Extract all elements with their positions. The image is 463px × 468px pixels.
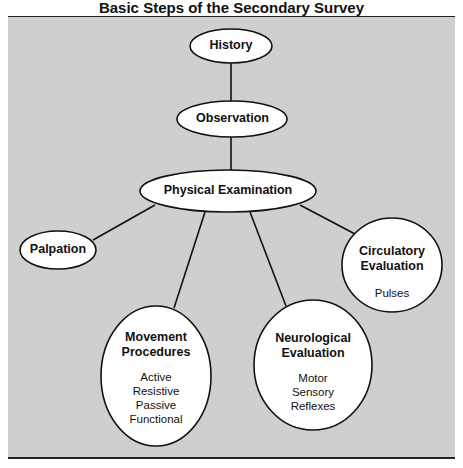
node-neurological-item: Sensory <box>254 385 372 399</box>
node-movement-item: Passive <box>101 398 211 412</box>
node-neurological-item: Reflexes <box>254 399 372 413</box>
node-neurological-evaluation: Neurological Evaluation Motor Sensory Re… <box>254 331 372 413</box>
node-history: History <box>190 38 272 53</box>
node-movement-item: Functional <box>101 412 211 426</box>
node-observation-label: Observation <box>177 111 288 126</box>
node-neurological-title-2: Evaluation <box>254 346 372 361</box>
edge-physical-neurological <box>250 212 286 306</box>
node-history-label: History <box>190 38 272 53</box>
node-physical-label: Physical Examination <box>140 183 316 198</box>
edge-physical-movement <box>174 212 205 308</box>
node-movement-item: Active <box>101 370 211 384</box>
node-physical-examination: Physical Examination <box>140 183 316 198</box>
node-neurological-item: Motor <box>254 371 372 385</box>
node-movement-title-2: Procedures <box>101 345 211 360</box>
node-circulatory-title-1: Circulatory <box>342 244 442 259</box>
edge-physical-circulatory <box>300 205 355 234</box>
node-movement-title-1: Movement <box>101 330 211 345</box>
node-circulatory-item: Pulses <box>342 286 442 300</box>
node-palpation-label: Palpation <box>20 242 96 257</box>
edge-physical-palpation <box>93 205 155 240</box>
node-movement-item: Resistive <box>101 384 211 398</box>
node-observation: Observation <box>177 111 288 126</box>
node-circulatory-evaluation: Circulatory Evaluation Pulses <box>342 244 442 300</box>
node-movement-procedures: Movement Procedures Active Resistive Pas… <box>101 330 211 426</box>
node-palpation: Palpation <box>20 242 96 257</box>
node-neurological-title-1: Neurological <box>254 331 372 346</box>
node-circulatory-title-2: Evaluation <box>342 259 442 274</box>
diagram-canvas <box>0 0 463 468</box>
